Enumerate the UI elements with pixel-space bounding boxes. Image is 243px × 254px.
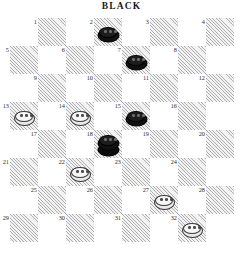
square-number-29: 29	[0, 214, 9, 221]
square-number-24: 24	[161, 158, 177, 165]
square-number-4: 4	[189, 18, 205, 25]
piece-top	[15, 111, 33, 122]
square-number-26: 26	[77, 186, 93, 193]
black-king-18[interactable]	[98, 135, 119, 156]
square-number-14: 14	[49, 102, 65, 109]
square-number-11: 11	[133, 74, 149, 81]
board-square-25[interactable]	[38, 186, 66, 214]
square-number-15: 15	[105, 102, 121, 109]
square-number-7: 7	[105, 46, 121, 53]
square-number-32: 32	[161, 214, 177, 221]
piece-pips	[188, 226, 201, 230]
piece-pips	[76, 170, 89, 174]
square-number-30: 30	[49, 214, 65, 221]
piece-top	[71, 111, 89, 122]
piece-top	[99, 135, 117, 146]
board-square-31[interactable]	[122, 214, 150, 242]
black-man-2[interactable]	[98, 27, 119, 42]
board-square-10[interactable]	[94, 74, 122, 102]
piece-top	[99, 27, 117, 38]
square-number-22: 22	[49, 158, 65, 165]
board-square-17[interactable]	[38, 130, 66, 158]
board-square-5[interactable]	[10, 46, 38, 74]
board-square-4[interactable]	[206, 18, 234, 46]
piece-top	[155, 195, 173, 206]
board-square-6[interactable]	[66, 46, 94, 74]
square-number-20: 20	[189, 130, 205, 137]
board-square-29[interactable]	[10, 214, 38, 242]
board-square-20[interactable]	[206, 130, 234, 158]
piece-pips	[20, 114, 33, 118]
piece-top	[127, 55, 145, 66]
board-square-blank	[206, 102, 234, 130]
square-number-31: 31	[105, 214, 121, 221]
square-number-17: 17	[21, 130, 37, 137]
square-number-2: 2	[77, 18, 93, 25]
square-number-3: 3	[133, 18, 149, 25]
square-number-9: 9	[21, 74, 37, 81]
piece-pips	[132, 114, 145, 118]
square-number-28: 28	[189, 186, 205, 193]
board-square-21[interactable]	[10, 158, 38, 186]
board-square-blank	[206, 158, 234, 186]
board-square-24[interactable]	[178, 158, 206, 186]
board-square-11[interactable]	[150, 74, 178, 102]
square-number-16: 16	[161, 102, 177, 109]
board-square-19[interactable]	[150, 130, 178, 158]
board-square-8[interactable]	[178, 46, 206, 74]
white-man-22[interactable]	[70, 167, 91, 182]
board-square-23[interactable]	[122, 158, 150, 186]
white-man-13[interactable]	[14, 111, 35, 126]
square-number-27: 27	[133, 186, 149, 193]
board-square-3[interactable]	[150, 18, 178, 46]
board-square-blank	[206, 46, 234, 74]
square-number-23: 23	[105, 158, 121, 165]
black-man-15[interactable]	[126, 111, 147, 126]
white-man-14[interactable]	[70, 111, 91, 126]
checkers-board[interactable]: 1234567891011121314151617181920212223242…	[10, 18, 234, 242]
square-number-1: 1	[21, 18, 37, 25]
piece-pips	[160, 198, 173, 202]
square-number-12: 12	[189, 74, 205, 81]
piece-pips	[76, 114, 89, 118]
piece-pips	[104, 138, 117, 142]
square-number-13: 13	[0, 102, 9, 109]
board-square-28[interactable]	[206, 186, 234, 214]
square-number-21: 21	[0, 158, 9, 165]
board-square-blank	[206, 214, 234, 242]
square-number-19: 19	[133, 130, 149, 137]
board-square-16[interactable]	[178, 102, 206, 130]
checkers-diagram: BLACK 1234567891011121314151617181920212…	[0, 0, 243, 254]
piece-top	[71, 167, 89, 178]
square-number-10: 10	[77, 74, 93, 81]
board-square-26[interactable]	[94, 186, 122, 214]
page-title: BLACK	[0, 1, 243, 11]
white-man-32[interactable]	[182, 223, 203, 238]
board-square-12[interactable]	[206, 74, 234, 102]
square-number-18: 18	[77, 130, 93, 137]
square-number-25: 25	[21, 186, 37, 193]
square-number-8: 8	[161, 46, 177, 53]
board-square-30[interactable]	[66, 214, 94, 242]
piece-top	[127, 111, 145, 122]
piece-top	[183, 223, 201, 234]
black-man-7[interactable]	[126, 55, 147, 70]
board-square-9[interactable]	[38, 74, 66, 102]
white-man-27[interactable]	[154, 195, 175, 210]
piece-pips	[104, 30, 117, 34]
board-square-1[interactable]	[38, 18, 66, 46]
piece-pips	[132, 58, 145, 62]
square-number-6: 6	[49, 46, 65, 53]
square-number-5: 5	[0, 46, 9, 53]
